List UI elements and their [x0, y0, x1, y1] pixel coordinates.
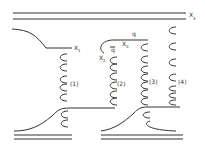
- label-x2-sub: 2: [103, 58, 106, 63]
- coil-bottom-left: [61, 111, 68, 127]
- label-region-4: (4): [178, 78, 187, 85]
- coil-column-3: [141, 44, 148, 105]
- label-q: q: [132, 30, 136, 38]
- coil-column-4: [169, 27, 176, 105]
- boundary-bottom-right: [101, 107, 180, 131]
- coil-bottom-right: [143, 112, 176, 131]
- top-boundary-x4: [13, 13, 186, 19]
- label-region-3: (3): [149, 78, 158, 85]
- diagram-svg: X 4 X 1 (1) q q X 3 X 2 (2) (3): [0, 0, 205, 149]
- bottom-left-double-line: [14, 135, 72, 139]
- coil-column-1: [60, 54, 67, 101]
- boundary-x1: [12, 29, 72, 48]
- coil-column-2: [110, 57, 117, 105]
- label-x3-sub: 3: [126, 44, 129, 49]
- label-x4-sub: 4: [193, 16, 196, 21]
- label-x1-sub: 1: [78, 48, 81, 53]
- label-region-1: (1): [70, 80, 79, 87]
- label-region-2: (2): [117, 80, 126, 87]
- bottom-right-double-line: [101, 135, 183, 139]
- diagram-canvas: X 4 X 1 (1) q q X 3 X 2 (2) (3): [0, 0, 205, 149]
